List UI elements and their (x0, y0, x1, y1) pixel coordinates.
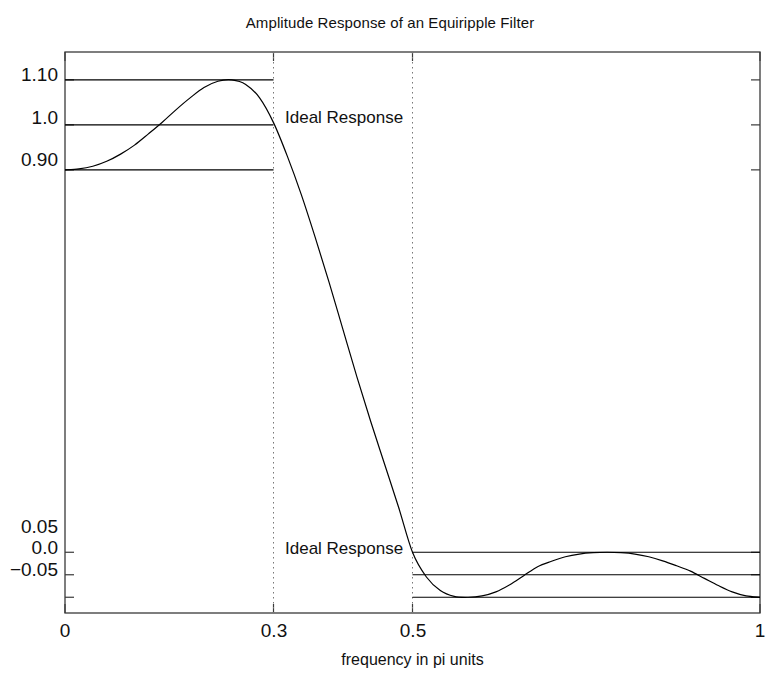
chart-figure: Amplitude Response of an Equiripple Filt… (0, 0, 780, 678)
plot-canvas (0, 0, 780, 678)
vertical-marker-lines (274, 52, 413, 613)
